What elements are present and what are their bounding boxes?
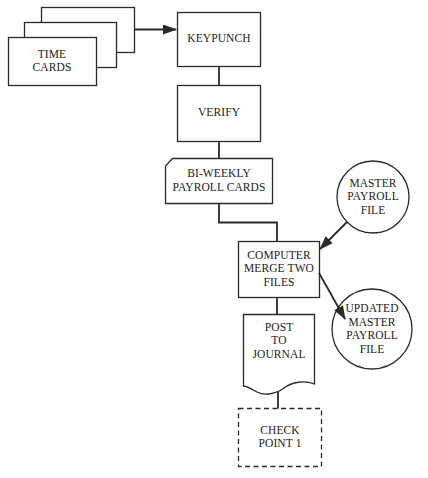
post-journal-line-1: POST — [265, 321, 294, 335]
updated-master-line-3: PAYROLL — [346, 329, 398, 343]
computer-merge-label: COMPUTER MERGE TWO FILES — [238, 241, 320, 297]
edge-payrollcards-merge — [219, 204, 277, 242]
computer-merge-line-3: FILES — [263, 276, 294, 290]
post-journal-label: POST TO JOURNAL — [243, 316, 315, 366]
post-journal-line-3: JOURNAL — [252, 348, 305, 362]
checkpoint-label: CHECK POINT 1 — [238, 408, 322, 466]
updated-master-label: UPDATED MASTER PAYROLL FILE — [332, 289, 412, 369]
master-file-label: MASTER PAYROLL FILE — [337, 161, 409, 233]
keypunch-label: KEYPUNCH — [177, 12, 261, 66]
checkpoint-line-1: CHECK — [260, 424, 299, 438]
updated-master-line-2: MASTER — [348, 316, 395, 330]
time-cards-label: TIME CARDS — [8, 37, 96, 85]
verify-line-1: VERIFY — [198, 106, 240, 120]
verify-label: VERIFY — [177, 85, 261, 141]
master-file-line-2: PAYROLL — [347, 190, 399, 204]
keypunch-line-1: KEYPUNCH — [187, 32, 250, 46]
computer-merge-line-2: MERGE TWO — [244, 262, 314, 276]
master-file-line-1: MASTER — [349, 177, 396, 191]
time-cards-line-2: CARDS — [33, 61, 72, 75]
checkpoint-line-2: POINT 1 — [259, 437, 302, 451]
post-journal-line-2: TO — [271, 334, 286, 348]
updated-master-line-4: FILE — [360, 343, 385, 357]
time-cards-line-1: TIME — [38, 48, 67, 62]
computer-merge-line-1: COMPUTER — [247, 249, 310, 263]
payroll-cards-line-2: PAYROLL CARDS — [172, 181, 265, 195]
payroll-cards-label: BI-WEEKLY PAYROLL CARDS — [165, 158, 273, 203]
payroll-cards-line-1: BI-WEEKLY — [187, 167, 251, 181]
master-file-line-3: FILE — [361, 204, 386, 218]
updated-master-line-1: UPDATED — [345, 302, 398, 316]
